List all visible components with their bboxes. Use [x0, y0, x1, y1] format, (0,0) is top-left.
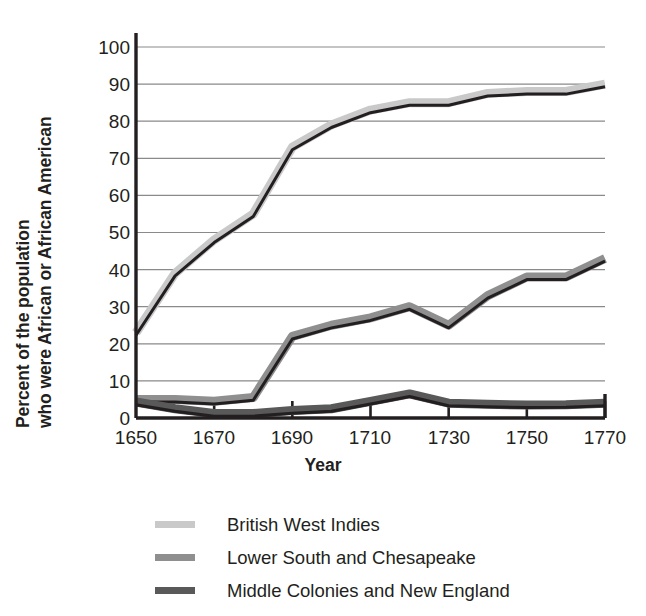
legend-label-middle-colonies-and-new-england: Middle Colonies and New England [227, 580, 510, 602]
chart-figure: Percent of the population who were Afric… [0, 0, 646, 616]
x-tick-1670: 1670 [193, 428, 235, 447]
legend-label-british-west-indies: British West Indies [227, 514, 380, 536]
x-tick-1750: 1750 [506, 428, 548, 447]
legend-swatch-british-west-indies [155, 521, 195, 528]
x-tick-1710: 1710 [349, 428, 391, 447]
x-tick-1770: 1770 [584, 428, 626, 447]
legend-item-lower-south-and-chesapeake: Lower South and Chesapeake [155, 541, 635, 574]
legend-item-british-west-indies: British West Indies [155, 508, 635, 541]
legend-swatch-middle-colonies-and-new-england [155, 587, 195, 594]
legend-swatch-lower-south-and-chesapeake [155, 554, 195, 561]
legend-label-lower-south-and-chesapeake: Lower South and Chesapeake [227, 547, 476, 569]
x-tick-1690: 1690 [271, 428, 313, 447]
x-tick-1730: 1730 [428, 428, 470, 447]
legend-item-middle-colonies-and-new-england: Middle Colonies and New England [155, 574, 635, 607]
x-tick-1650: 1650 [115, 428, 157, 447]
chart-legend: British West Indies Lower South and Ches… [155, 508, 635, 607]
x-axis-title: Year [0, 455, 646, 476]
